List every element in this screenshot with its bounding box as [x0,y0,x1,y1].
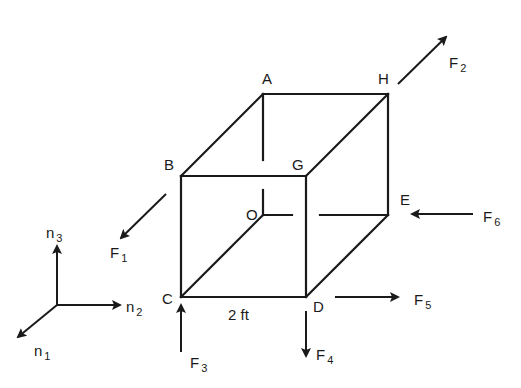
cube [181,94,388,297]
force-label-F4: F4 [316,346,333,366]
force-arrow-F2 [398,37,446,84]
force-arrow-F1 [121,194,166,238]
vertex-O: O [246,206,258,223]
force-label-F1: F1 [110,244,127,264]
force-label-F6: F6 [483,208,500,228]
vertex-D: D [313,298,324,315]
edge-CO [181,215,263,297]
coordinate-axes: n3 n2 n1 [18,224,142,362]
dimension-label: 2 ft [228,306,250,323]
axis-arrow-n1 [18,305,57,337]
vertex-G: G [292,156,304,173]
vertex-E: E [400,191,410,208]
cube-force-diagram: A H B G O E C D 2 ft F1 F2 F3 F4 F5 F6 [0,0,521,388]
axis-label-n2: n2 [126,298,142,318]
edge-BA [181,94,263,176]
vertex-C: C [162,290,173,307]
axis-label-n1: n1 [34,342,50,362]
vertex-H: H [378,70,389,87]
force-label-F5: F5 [414,291,431,311]
axis-label-n3: n3 [46,224,62,244]
force-label-F3: F3 [190,354,207,374]
edge-GH [306,94,388,176]
vertex-A: A [262,70,272,87]
edge-DE [306,215,388,297]
vertex-B: B [164,156,174,173]
force-label-F2: F2 [449,54,466,74]
